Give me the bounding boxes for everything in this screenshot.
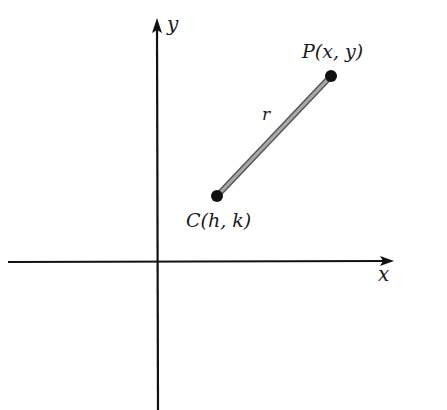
coordinate-plane	[0, 0, 447, 410]
x-axis-label: x	[378, 264, 389, 284]
point-p-label: P(x, y)	[302, 42, 363, 61]
y-axis	[152, 18, 162, 410]
point-c-label: C(h, k)	[186, 211, 251, 230]
point-c	[211, 190, 223, 202]
x-axis	[8, 256, 394, 266]
point-p	[325, 70, 337, 82]
radius-label: r	[262, 106, 270, 123]
radius-segment	[217, 76, 331, 196]
y-axis-label: y	[167, 14, 178, 34]
